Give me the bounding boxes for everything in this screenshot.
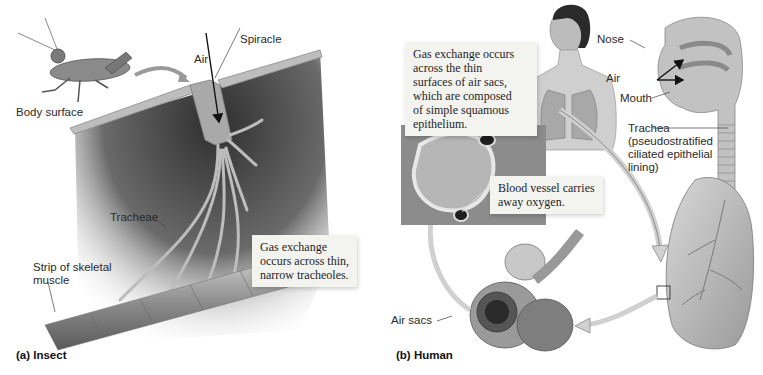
- callout-air-sacs-line: which are composed: [413, 89, 529, 103]
- callout-air-sacs-gas-exchange: Gas exchange occurs across the thin surf…: [405, 42, 537, 136]
- callout-blood-vessel-line: Blood vessel carries: [498, 181, 595, 195]
- lung-illustration: [657, 177, 754, 348]
- callout-air-sacs-line: across the thin: [413, 61, 529, 75]
- callout-air-sacs-line: epithelium.: [413, 117, 529, 131]
- label-trachea-line4: lining): [628, 161, 713, 174]
- callout-air-sacs-line: surfaces of air sacs,: [413, 75, 529, 89]
- callout-blood-vessel-line: away oxygen.: [498, 195, 595, 209]
- panel-caption-insect: (a) Insect: [16, 349, 67, 361]
- callout-tracheoles-line: narrow tracheoles.: [260, 268, 349, 282]
- zoom-arrow-air-sacs-to-inset: [430, 215, 470, 310]
- label-mouth: Mouth: [620, 92, 652, 105]
- callout-tracheoles-line: Gas exchange: [260, 240, 349, 254]
- label-skeletal-muscle-line1: Strip of skeletal: [33, 261, 112, 274]
- label-nose: Nose: [597, 33, 624, 46]
- respiratory-figure: Spiracle Air Body surface Tracheae Strip…: [0, 0, 763, 375]
- panel-caption-human: (b) Human: [396, 349, 453, 361]
- callout-air-sacs-line: of simple squamous: [413, 103, 529, 117]
- zoom-arrow-insect: [135, 68, 186, 78]
- label-skeletal-muscle-line2: muscle: [33, 274, 112, 287]
- label-air-human: Air: [606, 72, 620, 85]
- label-trachea-line2: (pseudostratified: [628, 135, 713, 148]
- label-trachea-line1: Trachea: [628, 122, 713, 135]
- zoom-arrow-lung-to-air-sacs: [585, 296, 657, 325]
- air-sacs-cluster: [470, 232, 580, 351]
- callout-tracheoles: Gas exchange occurs across thin, narrow …: [252, 235, 357, 287]
- label-tracheae: Tracheae: [110, 211, 158, 224]
- grasshopper-illustration: [18, 18, 132, 102]
- callout-air-sacs-line: Gas exchange occurs: [413, 47, 529, 61]
- label-spiracle: Spiracle: [240, 33, 282, 46]
- callout-blood-vessel: Blood vessel carries away oxygen.: [490, 176, 603, 214]
- label-body-surface: Body surface: [16, 106, 83, 119]
- illustration-art: [0, 0, 763, 375]
- label-skeletal-muscle: Strip of skeletal muscle: [33, 261, 112, 287]
- label-trachea-line3: ciliated epithelial: [628, 148, 713, 161]
- callout-tracheoles-line: occurs across thin,: [260, 254, 349, 268]
- label-air-sacs: Air sacs: [391, 314, 432, 327]
- label-air-insect: Air: [194, 53, 208, 66]
- label-trachea: Trachea (pseudostratified ciliated epith…: [628, 122, 713, 174]
